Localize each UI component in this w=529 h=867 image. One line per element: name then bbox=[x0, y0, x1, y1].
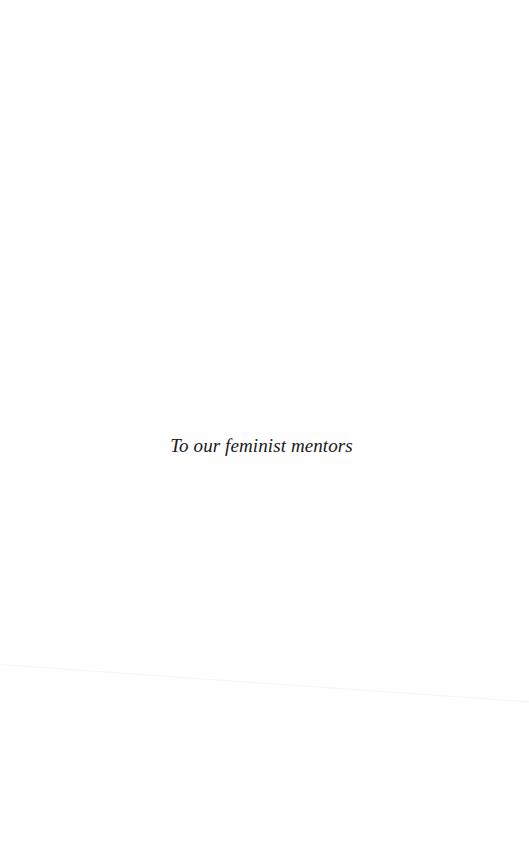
dedication-text: To our feminist mentors bbox=[0, 434, 523, 458]
scan-artifact-line bbox=[0, 664, 529, 702]
